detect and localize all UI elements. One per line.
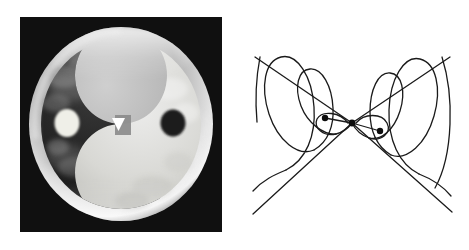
cone-apex-dot [349,120,356,127]
right-helix-turn-3 [389,59,438,174]
left-marked-dot [322,115,328,121]
left-helix-turn-3 [265,57,315,170]
figure-root [0,0,469,250]
left-helix-outer-arc [256,57,260,122]
right-panel-cone-diagram [236,0,469,250]
left-helix-turn-2 [298,69,336,150]
yin-yang-sphere-graphic [20,17,222,232]
right-marked-dot [377,128,383,134]
left-cone-lower-edge [253,123,352,214]
left-panel-yin-yang-sphere [20,17,222,232]
right-helix-tail [419,174,451,196]
left-helix-turn-1 [316,113,352,134]
right-cone-lower-edge [352,123,452,212]
light-dot-in-dark-half [55,109,80,137]
dark-dot-in-light-half [161,110,186,137]
double-cone-helix-graphic [236,0,469,250]
right-helix-outer-arc [435,57,450,188]
